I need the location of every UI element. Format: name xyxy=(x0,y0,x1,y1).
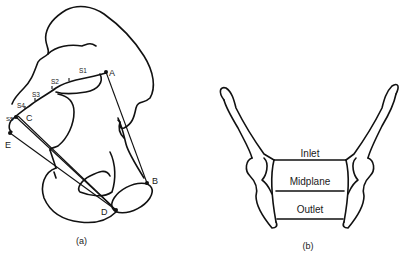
line-c-d-parallel xyxy=(18,116,112,206)
pelvis-diagram: A B C D E S1 S2 S3 S4 S5 (a) Inlet Midpl… xyxy=(0,0,408,258)
label-s3: S3 xyxy=(32,91,40,98)
label-s2: S2 xyxy=(51,78,59,85)
right-inner-lobe xyxy=(348,158,358,194)
iliac-ridge xyxy=(48,44,96,54)
left-inner-lobe xyxy=(262,158,272,194)
label-e: E xyxy=(5,140,11,150)
caption-a: (a) xyxy=(76,236,87,246)
obturator-foramen xyxy=(79,152,115,196)
label-a: A xyxy=(109,68,115,78)
label-inlet: Inlet xyxy=(301,148,320,159)
label-d: D xyxy=(101,207,108,217)
anterior-ilium xyxy=(118,118,144,178)
label-s1: S1 xyxy=(79,67,87,74)
label-outlet: Outlet xyxy=(297,204,324,215)
label-s5: S5 xyxy=(6,116,14,122)
label-c: C xyxy=(26,113,33,123)
point-d xyxy=(114,208,118,212)
left-iliac-wing xyxy=(220,88,274,160)
label-b: B xyxy=(152,176,158,186)
point-a xyxy=(104,70,108,74)
label-midplane: Midplane xyxy=(290,176,331,187)
label-s4: S4 xyxy=(17,102,25,109)
ischium-lobe xyxy=(50,94,74,150)
point-b xyxy=(145,181,149,185)
point-c xyxy=(14,115,18,119)
line-a-b xyxy=(106,72,147,183)
figure-b-labels: Inlet Midplane Outlet (b) xyxy=(290,148,331,251)
point-e xyxy=(8,131,12,135)
caption-b: (b) xyxy=(303,241,314,251)
figure-a-labels: A B C D E S1 S2 S3 S4 S5 (a) xyxy=(5,67,158,246)
